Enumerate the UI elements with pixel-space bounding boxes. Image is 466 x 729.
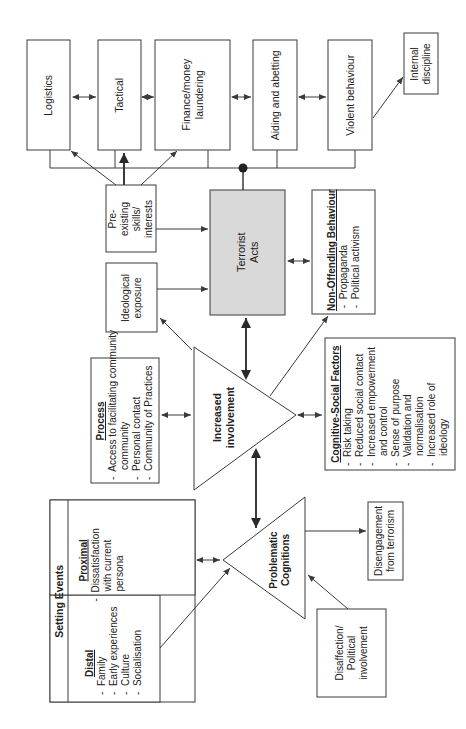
cognitive-item: - Increased role of ideology [426,346,450,466]
ideological-exposure-label-wrap: Ideological exposure [106,263,157,332]
process-wrap: Process - Access to facilitating communi… [91,358,159,483]
process-title: Process [95,362,107,480]
problematic-cognitions-label: Problematic Cognitions [268,531,292,588]
process-item: - Personal contact [131,362,143,480]
terrorist-acts-label: Terrorist Acts [234,228,260,278]
cognitive-social-title: Cognitive-Social Factors [330,342,342,466]
disengagement-label-wrap: Disengagement from terrorism [368,502,403,580]
internal-discipline-label: Internal discipline [409,43,433,84]
distal-title: Distal [84,603,96,695]
proximal-item: - Dissatisfaction with current persona [90,514,126,602]
non-offending-title: Non-Offending Behaviour [326,193,338,311]
finance-label-wrap: Finance/money laundering [155,40,230,150]
internal-discipline-label-wrap: Internal discipline [404,33,438,94]
increased-involvement-label: Increased involvement [211,387,236,448]
disaffection-label-wrap: Disaffection/ Political involvement [317,609,386,697]
disengagement-label: Disengagement from terrorism [374,506,398,576]
logistics-label-wrap: Logistics [27,40,70,150]
cognitive-item: - Validation and normalisation [402,356,426,466]
distal-item: - Family [96,603,108,695]
non-offending-item: - Political activism [350,193,362,311]
tactical-label: Tactical [113,77,126,112]
arrow-involvement-nonoffending [270,316,328,396]
non-offending-wrap: Non-Offending Behaviour - Propaganda - P… [312,190,375,314]
arrow-violent-discipline [373,77,403,118]
problematic-cognitions-label-wrap: Problematic Cognitions [260,525,300,595]
ideological-exposure-label: Ideological exposure [120,272,144,323]
distal-item: - Early experiences [108,603,120,695]
process-item-cont: community [119,362,131,480]
violent-label: Violent behaviour [344,55,357,136]
process-item: - Community of Practices [143,362,155,480]
violent-label-wrap: Violent behaviour [328,40,372,150]
activity-bus-line [50,150,355,168]
pre-existing-label: Pre-existing skills/ interests [107,194,155,244]
setting-events-title-wrap: Setting Events [50,500,68,702]
finance-label: Finance/money laundering [180,58,205,133]
distal-item: - Socialisation [132,603,144,695]
aiding-label-wrap: Aiding and abetting [253,40,297,150]
arrow-involvement-ideological [160,318,192,350]
distal-item: - Culture [120,603,132,695]
bus-junction-dot [239,164,248,173]
distal-wrap: Distal - Family - Early experiences - Cu… [68,595,160,702]
proximal-wrap: Proximal - Dissatisfaction with current … [68,500,195,595]
proximal-title: Proximal [78,507,90,602]
process-item: - Access to facilitating community [107,362,119,480]
disaffection-label: Disaffection/ Political involvement [334,620,370,686]
increased-involvement-label-wrap: Increased involvement [194,370,254,465]
cognitive-item: - Increased empowerment and control [366,342,390,466]
non-offending-item: - Propaganda [338,193,350,311]
arrow-disaffection-problematic [308,575,348,609]
cognitive-item: - Reduced social contact [354,342,366,466]
pre-existing-label-wrap: Pre-existing skills/ interests [106,185,156,252]
logistics-label: Logistics [42,75,55,116]
cognitive-item: - Sense of purpose [390,342,402,466]
tactical-label-wrap: Tactical [98,40,141,150]
terrorist-acts-label-wrap: Terrorist Acts [210,190,285,315]
aiding-label: Aiding and abetting [269,50,282,140]
cognitive-item: - Risk taking [342,342,354,466]
cognitive-social-wrap: Cognitive-Social Factors - Risk taking -… [325,338,455,470]
setting-events-title: Setting Events [53,565,66,638]
